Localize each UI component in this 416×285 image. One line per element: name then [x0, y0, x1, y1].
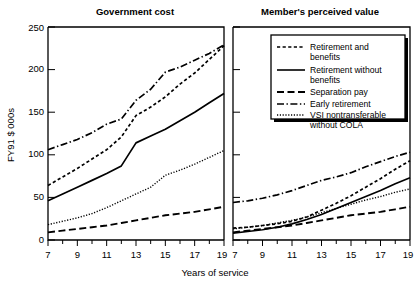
series-line-vsi-nontransferable-without-cola [233, 189, 410, 229]
legend-label: Retirement and [310, 42, 369, 52]
series-line-vsi-nontransferable-without-cola [48, 151, 224, 225]
x-tick-label: 17 [189, 249, 200, 260]
legend-label-cont: benefits [310, 75, 340, 85]
legend: Retirement and benefits Retirement witho… [271, 35, 408, 130]
x-tick-label: 7 [45, 249, 50, 260]
y-axis-title: FY91 $ 000s [5, 108, 16, 162]
legend-label: VSI nontransferable [310, 110, 386, 120]
legend-label-cont: benefits [310, 52, 340, 62]
legend-label: Early retirement [310, 99, 371, 109]
left-panel-curves [48, 45, 224, 232]
x-tick-label: 9 [260, 249, 265, 260]
y-tick-label: 200 [28, 63, 44, 74]
series-line-retirement-without-benefits [233, 178, 410, 233]
x-tick-label: 19 [403, 249, 414, 260]
right-panel-x-ticks [233, 240, 410, 246]
x-tick-label: 11 [287, 249, 297, 260]
right-panel-x-tick-labels: 7 9 11 13 15 17 19 [232, 249, 413, 260]
y-tick-label: 150 [28, 106, 44, 117]
x-tick-label: 13 [131, 249, 142, 260]
left-panel-x-tick-labels: 7 9 11 13 15 17 19 [45, 249, 227, 260]
series-line-separation-pay [48, 207, 224, 233]
y-tick-label: 50 [33, 191, 44, 202]
legend-label: Separation pay [310, 87, 369, 97]
x-tick-label: 11 [102, 249, 112, 260]
x-tick-label: 9 [75, 249, 80, 260]
legend-label: Retirement without [310, 65, 382, 75]
series-line-retirement-and-benefits [233, 161, 410, 228]
series-line-early-retirement [48, 45, 224, 150]
y-tick-label: 100 [28, 148, 44, 159]
y-tick-label: 0 [39, 234, 44, 245]
y-tick-label: 250 [28, 22, 44, 33]
series-line-retirement-and-benefits [48, 46, 224, 186]
right-panel-curves [233, 152, 410, 233]
left-panel-y-ticks [48, 27, 55, 240]
legend-label-cont: without COLA [309, 120, 363, 130]
left-panel: 7 9 11 13 15 17 19 [45, 27, 227, 260]
x-tick-label: 19 [217, 249, 228, 260]
right-panel-y-ticks [233, 27, 240, 240]
left-panel-x-ticks [48, 240, 224, 246]
y-tick-labels: 0 50 100 150 200 250 [28, 22, 44, 245]
x-tick-label: 17 [375, 249, 386, 260]
series-line-retirement-without-benefits [48, 93, 224, 200]
chart-svg: Government cost Member's perceived value… [0, 0, 416, 285]
x-axis-title: Years of service [181, 267, 248, 278]
x-tick-label: 15 [346, 249, 357, 260]
panel-title-government-cost: Government cost [96, 6, 175, 17]
x-tick-label: 13 [316, 249, 327, 260]
panel-title-members-perceived-value: Member's perceived value [261, 6, 379, 17]
x-tick-label: 7 [232, 249, 237, 260]
x-tick-label: 15 [160, 249, 171, 260]
chart-figure: Government cost Member's perceived value… [0, 0, 416, 285]
